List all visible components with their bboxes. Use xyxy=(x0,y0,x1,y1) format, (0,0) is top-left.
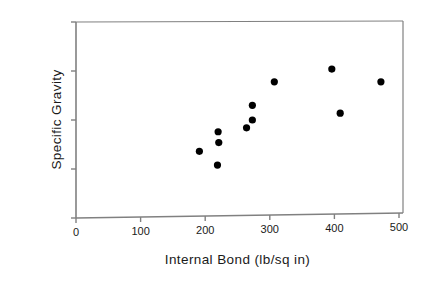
data-point xyxy=(215,128,222,135)
data-point xyxy=(215,139,222,146)
x-tick-label: 100 xyxy=(131,225,149,237)
data-point xyxy=(214,161,221,168)
x-tick-label: 200 xyxy=(196,224,214,236)
x-tick-label: 0 xyxy=(73,226,79,238)
x-tick-label: 400 xyxy=(325,222,343,234)
axis-ticks xyxy=(71,22,399,223)
data-points xyxy=(196,65,385,168)
data-point xyxy=(196,148,203,155)
x-axis-title: Internal Bond (lb/sq in) xyxy=(76,252,399,267)
data-point xyxy=(249,102,256,109)
x-tick-label: 300 xyxy=(261,223,279,235)
data-point xyxy=(328,65,335,72)
axes-frame xyxy=(76,21,403,218)
data-point xyxy=(249,116,256,123)
x-axis-tick-labels: 0100200300400500 xyxy=(0,225,423,245)
data-point xyxy=(271,78,278,85)
data-point xyxy=(377,78,384,85)
data-point xyxy=(337,110,344,117)
data-point xyxy=(243,124,250,131)
scatter-chart-figure: Specific Gravity 0.90.9511.051.1 0100200… xyxy=(0,0,423,281)
x-tick-label: 500 xyxy=(390,221,408,233)
